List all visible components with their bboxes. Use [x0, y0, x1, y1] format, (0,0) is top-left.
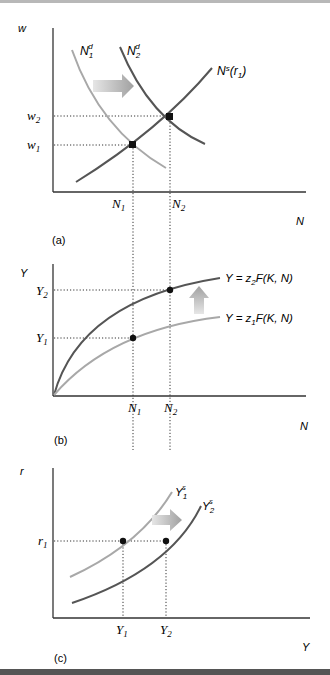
label-z1: Y = z1F(K, N): [225, 312, 293, 327]
tick-n1: N1: [111, 196, 125, 213]
label-z2: Y = z2F(K, N): [225, 272, 293, 287]
curve-y2s: [72, 506, 201, 603]
tick-w2: w2: [27, 108, 41, 125]
label-y2s: Y2s: [202, 498, 215, 515]
point-2: [163, 538, 169, 544]
y-axis-label: r: [20, 465, 25, 477]
panel-c: r Y Y1s Y2s r1 Y1 Y2 (c): [20, 465, 310, 664]
tick-n2: N2: [163, 400, 178, 417]
curve-z1: [54, 317, 220, 395]
y-axis-label: w: [18, 22, 27, 34]
figure: w N N1d N2d Ns(r1) w2 w1 N1 N2 (a) Y N: [0, 0, 330, 675]
tick-w1: w1: [27, 137, 40, 154]
x-axis-label: N: [296, 215, 304, 227]
point-1: [130, 335, 136, 341]
panel-label-c: (c): [54, 652, 67, 664]
shift-right-arrow-icon: [93, 74, 134, 98]
curve-n1-demand: [72, 50, 166, 168]
tick-y1: Y1: [116, 622, 128, 639]
tick-y1: Y1: [36, 330, 48, 347]
shift-up-arrow-icon: [189, 286, 209, 314]
label-n2d: N2d: [127, 42, 141, 60]
panel-b: Y N Y = z2F(K, N) Y = z1F(K, N) Y2 Y1 N1…: [20, 264, 308, 446]
x-axis-label: Y: [302, 641, 310, 653]
point-2: [167, 287, 173, 293]
label-ns: Ns(r1): [217, 64, 246, 80]
y-axis-label: Y: [20, 267, 28, 279]
equilibrium-1: [129, 141, 136, 148]
curve-n2-demand: [120, 47, 205, 144]
tick-n1: N1: [127, 400, 141, 417]
label-y1s: Y1s: [175, 484, 187, 501]
tick-r1: r1: [38, 533, 48, 550]
equilibrium-2: [166, 113, 173, 120]
point-1: [120, 538, 126, 544]
curve-y1s: [70, 492, 172, 577]
label-n1d: N1d: [80, 42, 93, 60]
tick-y2: Y2: [36, 283, 48, 300]
tick-y2: Y2: [160, 622, 172, 639]
bottom-border: [0, 669, 330, 675]
tick-n2: N2: [171, 196, 186, 213]
panel-label-a: (a): [52, 234, 65, 246]
panel-label-b: (b): [54, 434, 67, 446]
x-axis-label: N: [300, 420, 308, 432]
